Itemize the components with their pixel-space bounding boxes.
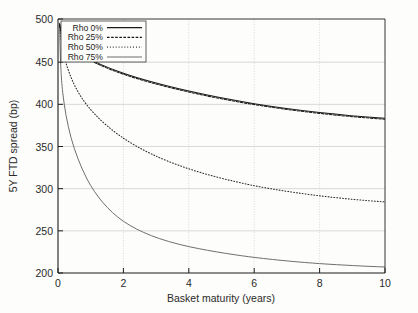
ytick-label-350: 350 [35,141,53,153]
legend-label-rho-50: Rho 50% [68,42,104,52]
x-axis-title: Basket maturity (years) [167,292,275,304]
xtick-label-2: 2 [120,277,126,289]
ytick-label-200: 200 [35,267,53,279]
ytick-label-250: 250 [35,225,53,237]
xtick-label-6: 6 [251,277,257,289]
chart-figure: 200 250 300 350 400 450 500 0 2 4 6 8 10… [0,0,418,313]
ytick-label-450: 450 [35,56,53,68]
xtick-label-0: 0 [55,277,61,289]
xtick-label-10: 10 [379,277,391,289]
xtick-label-4: 4 [186,277,192,289]
ftd-spread-line-chart: 200 250 300 350 400 450 500 0 2 4 6 8 10… [0,0,418,313]
legend-label-rho-25: Rho 25% [68,32,104,42]
ytick-label-400: 400 [35,98,53,110]
legend-label-rho-0: Rho 0% [72,23,103,33]
ytick-label-300: 300 [35,183,53,195]
ytick-label-500: 500 [35,13,53,25]
y-axis-title: 5Y FTD spread (bp) [7,100,19,193]
xtick-label-8: 8 [317,277,323,289]
legend-label-rho-75: Rho 75% [68,52,104,62]
chart-legend: Rho 0% Rho 25% Rho 50% Rho 75% [61,21,146,62]
